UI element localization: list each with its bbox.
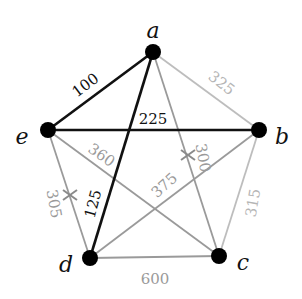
node-label-d: d: [59, 252, 73, 277]
edge-a-b: [153, 52, 259, 130]
node-label-b: b: [275, 124, 289, 149]
edge-weight-label: 300: [192, 142, 215, 173]
edge-weight-label: 600: [141, 270, 170, 288]
node-d: [82, 250, 98, 266]
edge-weight-label: 125: [81, 188, 106, 220]
edge-weight-label: 360: [85, 140, 119, 171]
graph-diagram: 100325225300360305375600315125abcde: [0, 0, 302, 299]
node-b: [251, 122, 267, 138]
node-e: [40, 122, 56, 138]
edge-weight-label: 100: [69, 69, 103, 101]
edge-weight-label: 315: [242, 187, 265, 218]
graph-svg: 100325225300360305375600315125abcde: [0, 0, 302, 299]
node-c: [211, 248, 227, 264]
edge-weight-label: 225: [139, 110, 168, 128]
edge-weight-label: 375: [148, 169, 181, 202]
edge-d-c: [90, 256, 219, 258]
edge-d-b: [90, 130, 259, 258]
node-a: [145, 44, 161, 60]
node-label-c: c: [237, 250, 249, 275]
node-label-a: a: [146, 18, 159, 43]
node-label-e: e: [15, 124, 28, 149]
edge-weight-label: 305: [43, 188, 66, 219]
edge-a-e: [48, 52, 153, 130]
